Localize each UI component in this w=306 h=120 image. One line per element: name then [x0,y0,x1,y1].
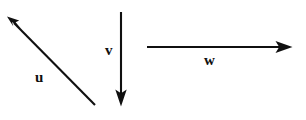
vector-label-u: u [35,70,43,85]
vector-u-shaft [14,23,95,105]
vector-u [7,17,95,106]
vector-canvas [0,0,306,120]
vector-diagram: u v w [0,0,306,120]
vector-u-arrowhead [7,17,21,29]
vector-v [115,12,126,107]
vector-w [147,41,293,53]
vector-label-w: w [204,53,215,68]
vector-label-v: v [105,43,113,58]
